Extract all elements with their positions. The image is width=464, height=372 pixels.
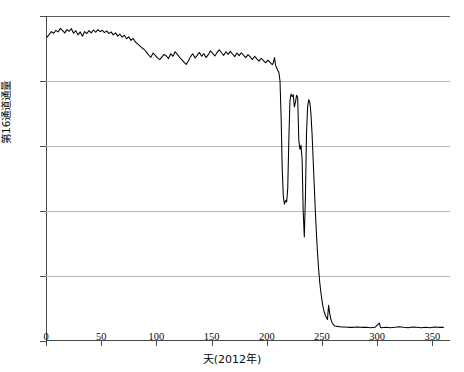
x-tick-label: 350	[412, 331, 452, 343]
x-tick-label: 200	[247, 331, 287, 343]
plot-area	[46, 16, 450, 341]
y-tick-mark	[40, 16, 46, 17]
chart-figure: 0.000.020.040.060.080.10 050100150200250…	[0, 0, 464, 372]
x-tick-label: 250	[302, 331, 342, 343]
y-tick-mark	[40, 276, 46, 277]
plot-border-left	[46, 16, 47, 341]
x-tick-label: 150	[192, 331, 232, 343]
gridline	[46, 276, 450, 277]
x-tick-label: 50	[81, 331, 121, 343]
y-tick-mark	[40, 81, 46, 82]
y-axis-title: 第16通道通量	[0, 81, 13, 144]
gridline	[46, 146, 450, 147]
plot-border-top	[46, 16, 450, 17]
data-series-line	[46, 16, 450, 341]
x-tick-label: 100	[136, 331, 176, 343]
gridline	[46, 81, 450, 82]
y-tick-mark	[40, 146, 46, 147]
y-tick-mark	[40, 211, 46, 212]
x-tick-label: 300	[357, 331, 397, 343]
x-tick-label: 0	[26, 331, 66, 343]
x-axis-title: 天(2012年)	[0, 350, 464, 366]
gridline	[46, 211, 450, 212]
